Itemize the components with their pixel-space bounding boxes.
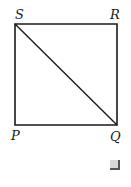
vertex-label-r: R: [109, 7, 120, 22]
diagonal-sq: [15, 24, 117, 125]
checkbox[interactable]: [110, 160, 120, 170]
square-diagram: S R P Q: [0, 0, 131, 187]
vertex-label-q: Q: [110, 129, 121, 144]
vertex-label-p: P: [10, 128, 20, 143]
vertex-label-s: S: [15, 7, 24, 22]
